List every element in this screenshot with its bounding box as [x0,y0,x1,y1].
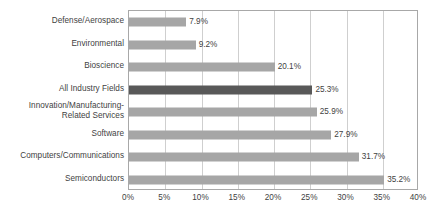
category-label: All Industry Fields [0,84,124,94]
bar [129,153,359,162]
bar [129,130,331,139]
category-axis: Defense/AerospaceEnvironmentalBioscience… [0,10,124,190]
x-tick-label: 25% [301,193,317,203]
bar [129,40,196,49]
x-tick-label: 15% [229,193,245,203]
category-label: Defense/Aerospace [0,16,124,26]
category-label: Software [0,129,124,139]
category-label: Bioscience [0,61,124,71]
bar [129,108,317,117]
x-tick-label: 5% [158,193,170,203]
bars-layer [129,11,417,189]
category-label: Semiconductors [0,174,124,184]
x-tick-label: 20% [265,193,281,203]
bar [129,63,275,72]
category-label: Innovation/Manufacturing- Related Servic… [0,102,124,121]
bar [129,18,186,27]
x-tick-label: 40% [410,193,426,203]
category-label: Computers/Communications [0,151,124,161]
x-tick-label: 30% [337,193,353,203]
x-tick-label: 35% [374,193,390,203]
x-tick-label: 0% [122,193,134,203]
bar [129,175,384,184]
plot-area [128,10,418,190]
category-label: Environmental [0,39,124,49]
x-tick-label: 10% [192,193,208,203]
x-axis: 0%5%10%15%20%25%30%35%40% [128,191,418,213]
bar [129,85,312,94]
bar-chart: Defense/AerospaceEnvironmentalBioscience… [0,0,437,221]
